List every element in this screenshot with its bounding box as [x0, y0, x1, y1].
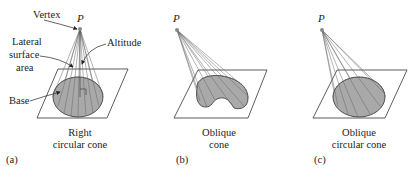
label-lateral-1: Lateral — [12, 36, 42, 47]
caption-c-line2: circular cone — [332, 139, 387, 150]
panel-c-oblique-circular-cone: P Oblique circular cone (c) — [313, 12, 407, 166]
panel-label-a: (a) — [6, 154, 18, 166]
panel-label-b: (b) — [176, 154, 189, 166]
vertex-dot-a — [78, 27, 82, 31]
caption-b-line2: cone — [209, 139, 229, 150]
caption-a-line2: circular cone — [53, 139, 108, 150]
caption-c-line1: Oblique — [342, 127, 376, 138]
label-lateral-3: area — [16, 62, 34, 73]
vertex-dot-b — [175, 28, 179, 32]
label-p-c: P — [317, 12, 325, 24]
panel-a-right-circular-cone: Vertex P Lateral surface area Altitude B… — [6, 9, 142, 166]
label-p-a: P — [76, 12, 84, 24]
vertex-arrow — [44, 20, 77, 29]
cone-diagram: Vertex P Lateral surface area Altitude B… — [0, 0, 418, 177]
label-vertex: Vertex — [33, 9, 61, 20]
caption-b-line1: Oblique — [202, 127, 236, 138]
label-altitude: Altitude — [107, 37, 142, 48]
panel-b-oblique-cone: P Oblique cone (b) — [172, 12, 267, 166]
label-base: Base — [9, 95, 30, 106]
label-lateral-2: surface — [9, 49, 40, 60]
altitude-arrow — [82, 44, 106, 64]
panel-label-c: (c) — [314, 154, 326, 166]
vertex-dot-c — [320, 28, 324, 32]
lateral-arrow — [40, 56, 73, 67]
label-p-b: P — [172, 12, 180, 24]
base-ellipse-c — [333, 77, 385, 117]
caption-a-line1: Right — [68, 127, 91, 138]
